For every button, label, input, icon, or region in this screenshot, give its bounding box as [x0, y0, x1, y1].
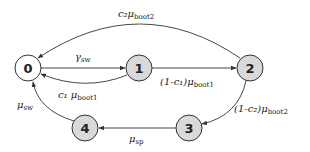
node-1: 1: [126, 55, 152, 81]
state-diagram: γsw c₁ μboot1 (1-c₁)μboot1 c₂μboot2 (1-c…: [0, 0, 310, 152]
node-3: 3: [176, 115, 202, 141]
node-4: 4: [72, 115, 98, 141]
svg-text:1: 1: [134, 61, 143, 76]
svg-text:0: 0: [23, 61, 32, 76]
label-1-c1-mu-boot1: (1-c₁)μboot1: [160, 76, 214, 89]
edge-4-to-0: [33, 82, 74, 121]
label-1-c2-mu-boot2: (1-c₂)μboot2: [234, 103, 288, 116]
svg-text:3: 3: [184, 121, 193, 136]
svg-text:4: 4: [80, 121, 89, 136]
node-2: 2: [237, 55, 263, 81]
label-c2-mu-boot2: c₂μboot2: [118, 8, 154, 21]
label-mu-sp: μsp: [129, 133, 144, 146]
label-c1-mu-boot1: c₁ μboot1: [58, 89, 97, 102]
node-0: 0: [15, 55, 41, 81]
edge-2-to-0: [38, 24, 240, 58]
label-gamma-sw: γsw: [75, 51, 91, 64]
edge-1-to-0: [41, 74, 127, 83]
label-mu-sw: μsw: [17, 99, 33, 112]
svg-text:2: 2: [245, 61, 254, 76]
